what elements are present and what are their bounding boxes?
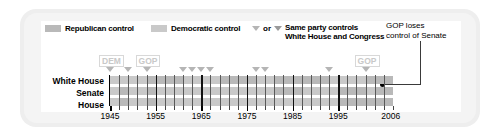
gridline-minor: [375, 75, 376, 106]
gridline-decade: [293, 75, 295, 106]
axis-tick-minor: [283, 106, 284, 110]
party-tag-gop: GOP: [136, 55, 161, 67]
unified-government-marker-icon: [206, 67, 214, 72]
democratic-swatch: [151, 25, 167, 32]
unified-government-marker-icon: [252, 67, 260, 72]
gridline-minor: [274, 75, 275, 106]
legend-same-party-line1: Same party controls: [285, 23, 358, 32]
legend-marker-group: or: [252, 23, 282, 33]
axis-tick-label: 1945: [101, 111, 120, 121]
band-row: [110, 76, 393, 84]
axis-tick-minor: [210, 106, 211, 110]
gridline-minor: [119, 75, 120, 106]
row-label-white-house: White House: [41, 76, 107, 86]
legend-same-party-text: Same party controls White House and Cong…: [285, 23, 384, 41]
gridline-minor: [128, 75, 129, 106]
gridline-minor: [356, 75, 357, 106]
gridline-minor: [366, 75, 367, 106]
gridline-minor: [174, 75, 175, 106]
gridline-minor: [238, 75, 239, 106]
control-segment: [338, 87, 365, 95]
axis-tick-minor: [274, 106, 275, 110]
band-row: [110, 87, 393, 95]
legend-label-democratic: Democratic control: [171, 24, 240, 33]
axis-tick-label: 2006: [381, 111, 400, 121]
chart-panel: Republican control Democratic control or…: [41, 21, 461, 112]
axis-tick-minor: [256, 106, 257, 110]
legend-or-label: or: [263, 24, 271, 33]
unified-government-marker-icon: [261, 67, 269, 72]
plot-bands: [110, 75, 393, 106]
unified-government-marker-icon: [188, 67, 196, 72]
legend-item-democratic: Democratic control: [151, 24, 240, 33]
axis-tick-label: 1965: [192, 111, 211, 121]
gridline-minor: [165, 75, 166, 106]
gridline-minor: [265, 75, 266, 106]
control-segment: [366, 76, 393, 84]
gridline-minor: [283, 75, 284, 106]
party-tag-dem: DEM: [99, 55, 124, 67]
legend-same-party-line2: White House and Congress: [285, 32, 384, 41]
axis-tick-minor: [393, 106, 394, 110]
control-segment: [119, 87, 128, 95]
gridline-minor: [384, 75, 385, 106]
unified-government-marker-icon: [106, 67, 114, 72]
axis-tick-minor: [384, 106, 385, 110]
axis-tick-minor: [192, 106, 193, 110]
axis-tick-minor: [347, 106, 348, 110]
axis-tick-label: 1975: [237, 111, 256, 121]
gridline-decade: [247, 75, 249, 106]
axis-tick-minor: [229, 106, 230, 110]
legend-item-republican: Republican control: [45, 24, 134, 33]
axis-tick-minor: [137, 106, 138, 110]
axis-tick-minor: [119, 106, 120, 110]
axis-tick-label: 1985: [283, 111, 302, 121]
axis-tick-label: 1955: [146, 111, 165, 121]
row-labels: White House Senate House: [41, 75, 107, 110]
callout-line1: GOP loses: [386, 21, 425, 30]
axis-tick-minor: [356, 106, 357, 110]
gridline-minor: [320, 75, 321, 106]
gridline-minor: [311, 75, 312, 106]
party-tag-gop: GOP: [355, 55, 380, 67]
control-segment: [119, 98, 128, 106]
axis-tick-minor: [174, 106, 175, 110]
axis-tick-label: 1995: [329, 111, 348, 121]
gridline-minor: [192, 75, 193, 106]
control-segment: [147, 98, 156, 106]
unified-government-marker-icon: [179, 67, 187, 72]
callout-line2: control of Senate: [386, 31, 446, 40]
axis-tick-minor: [128, 106, 129, 110]
gridline-minor: [210, 75, 211, 106]
control-segment: [366, 87, 375, 95]
axis-tick-minor: [366, 106, 367, 110]
gridline-minor: [329, 75, 330, 106]
triangle-marker-dark-icon: [274, 26, 282, 31]
gridline-minor: [147, 75, 148, 106]
axis-tick-minor: [165, 106, 166, 110]
axis-tick-minor: [147, 106, 148, 110]
axis-tick-minor: [183, 106, 184, 110]
axis-tick-minor: [302, 106, 303, 110]
control-segment: [147, 87, 156, 95]
triangle-marker-light-icon: [252, 26, 260, 31]
callout-gop-loses-senate: GOP loses control of Senate: [386, 21, 461, 40]
axis-tick-minor: [320, 106, 321, 110]
row-label-house: House: [41, 100, 107, 110]
axis-tick-minor: [238, 106, 239, 110]
axis-tick-minor: [220, 106, 221, 110]
row-label-senate: Senate: [41, 88, 107, 98]
gridline-minor: [347, 75, 348, 106]
unified-government-marker-icon: [143, 67, 151, 72]
chart-area: White House Senate House 194519551965197…: [41, 75, 461, 112]
gridline-minor: [137, 75, 138, 106]
x-axis: 1945195519651975198519952006: [110, 106, 393, 122]
gridline-minor: [256, 75, 257, 106]
axis-tick-minor: [375, 106, 376, 110]
infographic-root: Republican control Democratic control or…: [0, 0, 500, 136]
unified-government-marker-icon: [124, 67, 132, 72]
unified-government-marker-icon: [197, 67, 205, 72]
gridline-minor: [302, 75, 303, 106]
control-segment: [110, 87, 119, 95]
gridline-minor: [183, 75, 184, 106]
